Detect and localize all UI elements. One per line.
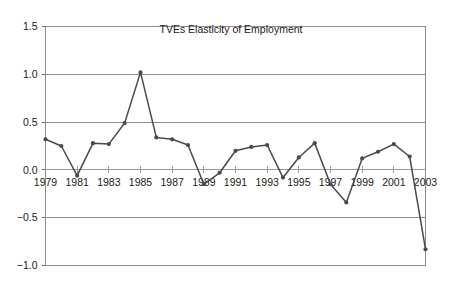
chart-container: −1.0−0.50.00.51.01.5 1979198119831985198… bbox=[0, 0, 457, 283]
data-point-1995 bbox=[297, 155, 301, 159]
x-tick-label-1983: 1983 bbox=[97, 176, 121, 188]
y-tick-label-1.5: 1.5 bbox=[23, 20, 38, 32]
data-point-1987 bbox=[170, 137, 174, 141]
data-point-1985 bbox=[138, 70, 142, 74]
x-tick-label-1987: 1987 bbox=[160, 176, 184, 188]
y-tick-label--1: −1.0 bbox=[17, 259, 38, 271]
y-tick-label-1: 1.0 bbox=[23, 68, 38, 80]
data-point-2002 bbox=[408, 154, 412, 158]
data-point-1984 bbox=[123, 121, 127, 125]
data-point-2003 bbox=[423, 247, 427, 251]
x-tick-label-1993: 1993 bbox=[255, 176, 279, 188]
chart-background bbox=[0, 0, 457, 283]
x-tick-label-1995: 1995 bbox=[287, 176, 311, 188]
data-point-1994 bbox=[281, 175, 285, 179]
x-tick-label-1979: 1979 bbox=[34, 176, 58, 188]
y-tick-label--0.5: −0.5 bbox=[17, 211, 38, 223]
data-point-1986 bbox=[154, 135, 158, 139]
y-tick-label-0: 0.0 bbox=[23, 164, 38, 176]
data-point-1993 bbox=[265, 143, 269, 147]
data-point-1996 bbox=[313, 141, 317, 145]
data-point-1999 bbox=[360, 156, 364, 160]
x-tick-label-1991: 1991 bbox=[224, 176, 248, 188]
line-chart: −1.0−0.50.00.51.01.5 1979198119831985198… bbox=[0, 0, 457, 283]
x-tick-label-2003: 2003 bbox=[414, 176, 438, 188]
chart-title: TVEs Elasticity of Employment bbox=[160, 23, 303, 35]
data-point-1989 bbox=[202, 182, 206, 186]
y-tick-label-0.5: 0.5 bbox=[23, 116, 38, 128]
x-tick-label-2001: 2001 bbox=[382, 176, 406, 188]
data-point-1997 bbox=[328, 182, 332, 186]
x-tick-label-1985: 1985 bbox=[129, 176, 153, 188]
data-point-2000 bbox=[376, 150, 380, 154]
data-point-1982 bbox=[91, 141, 95, 145]
data-point-1991 bbox=[233, 149, 237, 153]
data-point-1981 bbox=[75, 174, 79, 178]
data-point-1998 bbox=[344, 200, 348, 204]
data-point-2001 bbox=[392, 142, 396, 146]
data-point-1983 bbox=[107, 142, 111, 146]
data-point-1980 bbox=[59, 144, 63, 148]
data-point-1990 bbox=[218, 171, 222, 175]
data-point-1992 bbox=[249, 145, 253, 149]
data-point-1988 bbox=[186, 143, 190, 147]
data-point-1979 bbox=[43, 137, 47, 141]
